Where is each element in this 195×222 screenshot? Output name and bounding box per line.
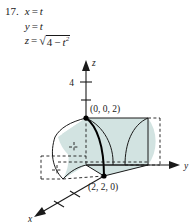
- point-label-0-0-2: (0, 0, 2): [90, 104, 120, 115]
- equation-x-lhs: x: [25, 5, 30, 17]
- hidden-edge-base-diagonal: [63, 176, 104, 179]
- solid-faces: [58, 118, 156, 179]
- x-axis-label: x: [27, 214, 33, 222]
- square-root-expression: √4−t2: [39, 35, 70, 48]
- z-axis-label: z: [91, 58, 96, 68]
- z-axis-arrowhead-icon: [82, 60, 90, 71]
- radicand: 4−t2: [46, 35, 70, 48]
- solid-right-end-face: [148, 118, 156, 165]
- problem-number: 17.: [5, 4, 19, 18]
- radicand-operator: −: [52, 36, 62, 48]
- equation-x-rhs: t: [40, 5, 43, 17]
- point-marker-0-0-2: [83, 115, 88, 120]
- z-axis-tick-label-4: 4: [69, 78, 74, 88]
- equation-x: x=t: [25, 4, 70, 19]
- equation-y: y=t: [25, 19, 70, 34]
- equation-y-operator: =: [30, 20, 40, 32]
- y-axis-label: y: [183, 161, 189, 171]
- equation-y-rhs: t: [40, 20, 43, 32]
- figure-page: 17. x=t y=t z=√4−t2: [0, 0, 195, 222]
- x-axis-tick-1: [70, 191, 80, 197]
- diagram-canvas: z 4 y x (0, 0, 2) (2, 2, 0): [0, 52, 195, 222]
- radicand-exponent: 2: [66, 35, 70, 43]
- y-axis-arrowhead-icon: [169, 161, 180, 169]
- equation-z: z=√4−t2: [25, 33, 70, 48]
- radical-sign-icon: √: [39, 35, 46, 48]
- x-axis-arrowhead-icon: [34, 207, 46, 217]
- equation-y-lhs: y: [25, 20, 30, 32]
- point-marker-2-2-0: [101, 173, 106, 178]
- equation-z-operator: =: [29, 34, 39, 46]
- equation-x-operator: =: [30, 5, 40, 17]
- point-label-2-2-0: (2, 2, 0): [88, 182, 118, 193]
- three-d-diagram: z 4 y x (0, 0, 2) (2, 2, 0): [0, 52, 195, 222]
- problem-statement: 17. x=t y=t z=√4−t2: [5, 4, 70, 48]
- equation-list: x=t y=t z=√4−t2: [25, 4, 70, 48]
